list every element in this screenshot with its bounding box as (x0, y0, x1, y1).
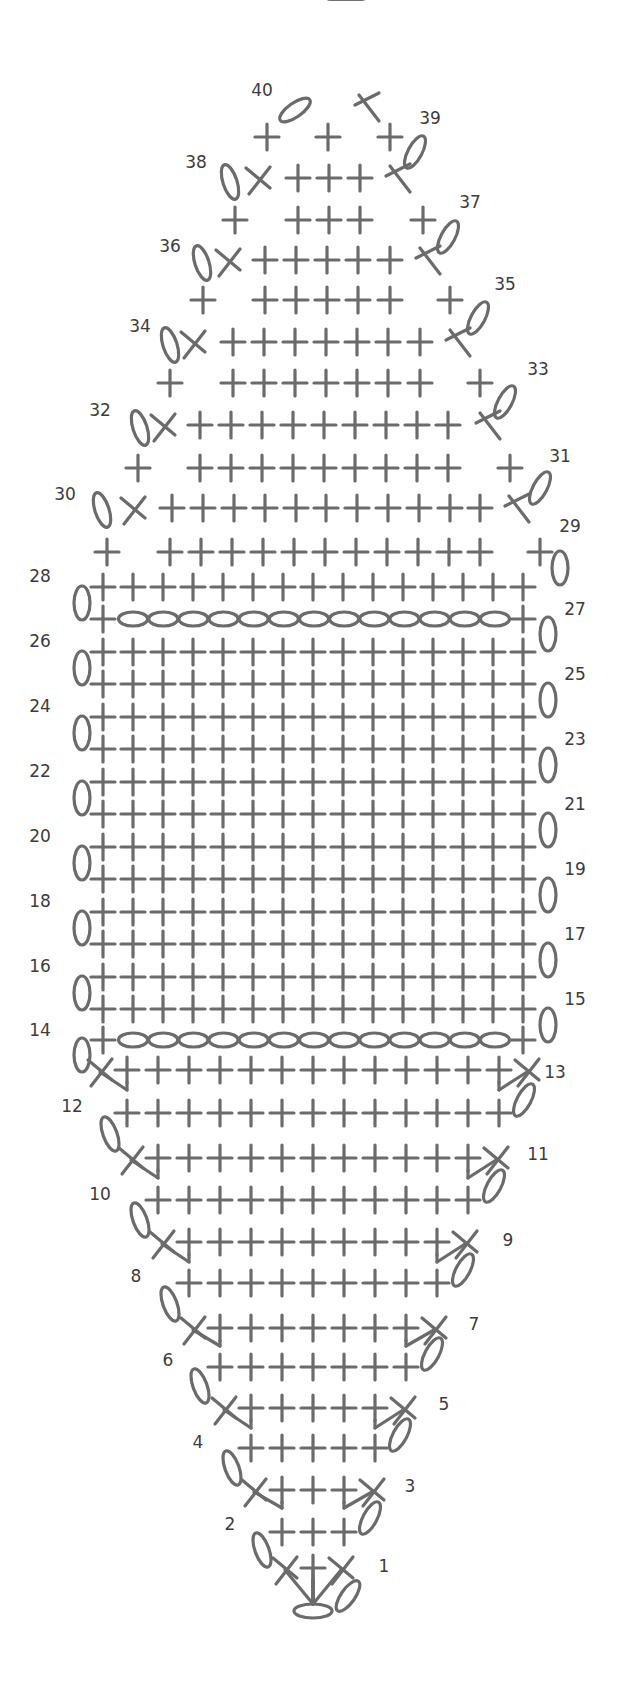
chain-stitch-icon (119, 612, 148, 626)
single-crochet-icon (121, 899, 145, 925)
chain-stitch-icon (74, 846, 90, 880)
single-crochet-icon (345, 329, 369, 355)
single-crochet-icon (394, 1270, 418, 1296)
single-crochet-icon (511, 866, 535, 892)
row-label-15: 15 (564, 989, 586, 1009)
single-crochet-icon (332, 1519, 356, 1545)
single-crochet-icon (363, 1057, 387, 1083)
single-crochet-icon (456, 1100, 480, 1126)
single-crochet-icon (239, 1187, 263, 1213)
single-crochet-icon (363, 1145, 387, 1171)
single-crochet-icon (361, 801, 385, 827)
row-label-13: 13 (544, 1062, 566, 1082)
single-crochet-icon (481, 736, 505, 762)
single-crochet-icon (241, 834, 265, 860)
row-label-25: 25 (564, 664, 586, 684)
single-crochet-icon (312, 455, 336, 481)
chain-stitch-icon (332, 1577, 364, 1615)
single-crochet-icon (451, 931, 475, 957)
increase-v-connector (285, 1570, 313, 1604)
single-crochet-icon (391, 769, 415, 795)
single-crochet-icon (255, 124, 279, 150)
single-crochet-icon (126, 455, 150, 481)
single-crochet-icon (271, 801, 295, 827)
single-crochet-icon (343, 412, 367, 438)
row-label-38: 38 (185, 152, 207, 172)
single-crochet-icon (281, 412, 305, 438)
single-crochet-icon (363, 1354, 387, 1380)
single-crochet-icon (271, 574, 295, 600)
single-crochet-icon (181, 996, 205, 1022)
row-label-33: 33 (527, 359, 549, 379)
single-crochet-icon (421, 834, 445, 860)
single-crochet-icon (270, 1315, 294, 1341)
single-crochet-icon (331, 834, 355, 860)
chain-stitch-icon (74, 716, 90, 750)
single-crochet-icon (301, 1395, 325, 1421)
single-crochet-icon (363, 1270, 387, 1296)
single-crochet-icon (511, 899, 535, 925)
chain-stitch-icon (294, 1604, 332, 1618)
single-crochet-icon (331, 769, 355, 795)
single-crochet-icon (241, 931, 265, 957)
single-crochet-icon (241, 736, 265, 762)
single-crochet-icon (301, 639, 325, 665)
single-crochet-icon (315, 287, 339, 313)
chain-stitch-icon (540, 683, 556, 717)
single-crochet-icon (301, 1354, 325, 1380)
single-crochet-icon (241, 899, 265, 925)
row-label-12: 12 (61, 1096, 83, 1116)
row-label-layer: 1234567891011121314151617181920212223242… (29, 80, 586, 1576)
single-crochet-icon (361, 704, 385, 730)
single-crochet-icon (343, 455, 367, 481)
single-crochet-icon (91, 671, 115, 697)
single-crochet-icon (376, 370, 400, 396)
single-crochet-icon (332, 1187, 356, 1213)
chain-stitch-icon (540, 878, 556, 912)
single-crochet-icon (241, 704, 265, 730)
single-crochet-icon (332, 1315, 356, 1341)
single-crochet-icon (301, 996, 325, 1022)
row-label-17: 17 (564, 924, 586, 944)
single-crochet-icon (406, 539, 430, 565)
single-crochet-icon (91, 931, 115, 957)
chain-stitch-icon (239, 1033, 268, 1047)
single-crochet-icon (363, 1100, 387, 1126)
single-crochet-icon (208, 1145, 232, 1171)
single-crochet-icon (151, 801, 175, 827)
single-crochet-icon (317, 165, 341, 191)
single-crochet-icon (481, 834, 505, 860)
single-crochet-icon (391, 671, 415, 697)
single-crochet-icon (331, 964, 355, 990)
single-crochet-icon (301, 1229, 325, 1255)
single-crochet-icon (345, 370, 369, 396)
chain-stitch-icon (420, 612, 449, 626)
single-crochet-icon (451, 704, 475, 730)
single-crochet-icon (332, 1435, 356, 1461)
chain-stitch-icon (269, 1033, 298, 1047)
single-crochet-icon (331, 671, 355, 697)
row-label-22: 22 (29, 761, 51, 781)
single-crochet-icon (239, 1354, 263, 1380)
chain-stitch-icon (450, 612, 479, 626)
single-crochet-icon (374, 412, 398, 438)
single-crochet-icon (253, 495, 277, 521)
single-crochet-icon (312, 412, 336, 438)
single-crochet-icon (91, 639, 115, 665)
single-crochet-icon (301, 1435, 325, 1461)
row-label-29: 29 (559, 516, 581, 536)
chain-stitch-icon (330, 612, 359, 626)
single-crochet-icon (271, 704, 295, 730)
chain-stitch-icon (128, 409, 152, 448)
chain-stitch-icon (400, 133, 429, 171)
single-crochet-icon (151, 639, 175, 665)
chain-stitch-icon (249, 1531, 274, 1570)
single-crochet-icon (208, 1315, 232, 1341)
single-crochet-icon (283, 329, 307, 355)
single-crochet-icon (361, 964, 385, 990)
single-crochet-icon (511, 834, 535, 860)
single-crochet-icon (332, 1477, 356, 1503)
chain-stitch-icon (74, 976, 90, 1010)
row-label-27: 27 (564, 599, 586, 619)
single-crochet-icon (241, 639, 265, 665)
